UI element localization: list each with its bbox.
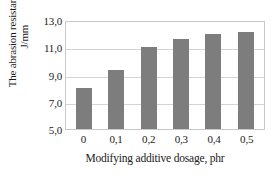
bar-slot (230, 22, 262, 129)
x-tick-label: 0,5 (230, 133, 263, 149)
plot-area (65, 21, 265, 130)
x-axis-title: Modifying additive dosage, phr (40, 152, 270, 164)
bar (205, 34, 221, 129)
x-tick-label: 0 (67, 133, 100, 149)
x-axis-tick-labels: 00,10,20,30,40,5 (65, 133, 265, 149)
bar-slot (197, 22, 229, 129)
bar (238, 32, 254, 129)
y-axis-title-text: The abrasion resistance, J/mm (5, 0, 30, 93)
y-axis-title: The abrasion resistance, J/mm3 (3, 0, 33, 93)
bar (173, 39, 189, 129)
y-tick-label: 11,0 (44, 42, 62, 54)
bar-slot (100, 22, 132, 129)
x-tick-label: 0,1 (100, 133, 133, 149)
bar (76, 88, 92, 129)
x-tick-label: 0,3 (165, 133, 198, 149)
x-tick-label: 0,4 (198, 133, 231, 149)
bar-chart-figure: The abrasion resistance, J/mm3 5,07,09,0… (0, 0, 275, 183)
y-tick-label: 13,0 (44, 15, 62, 27)
bar (108, 70, 124, 129)
y-tick-label: 9,0 (49, 70, 62, 82)
x-tick-label: 0,2 (132, 133, 165, 149)
y-axis-tick-labels: 5,07,09,011,013,0 (32, 21, 62, 130)
y-tick-label: 7,0 (49, 97, 62, 109)
bar-slot (165, 22, 197, 129)
bar-slot (68, 22, 100, 129)
bars-layer (66, 22, 264, 129)
y-tick-label: 5,0 (49, 124, 62, 136)
bar-slot (133, 22, 165, 129)
bar (141, 47, 157, 129)
